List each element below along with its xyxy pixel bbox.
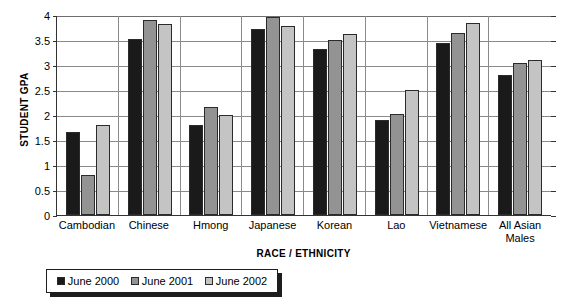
- bar: [143, 20, 157, 215]
- group-separator: [180, 16, 181, 215]
- x-axis-tick-labels: CambodianChineseHmongJapaneseKoreanLaoVi…: [56, 219, 551, 244]
- y-axis-tick-right: [551, 216, 556, 217]
- chart-legend: June 2000June 2001June 2002: [46, 269, 278, 293]
- bar: [313, 49, 327, 216]
- bar-group: [366, 16, 428, 215]
- y-axis-tick-right: [551, 116, 556, 117]
- bar: [204, 107, 218, 216]
- bar-group: [119, 16, 181, 215]
- y-axis-tick-label: 0: [44, 210, 50, 222]
- bar-groups: [57, 16, 551, 215]
- y-axis-tick-right: [551, 141, 556, 142]
- legend-label: June 2001: [142, 275, 193, 287]
- bar: [436, 43, 450, 215]
- bar: [405, 90, 419, 215]
- bar: [466, 23, 480, 216]
- group-separator: [241, 16, 242, 215]
- y-axis-tick-right: [551, 166, 556, 167]
- bar: [328, 40, 342, 215]
- bar-chart: STUDENT GPA 43.532.521.510.50 CambodianC…: [0, 0, 578, 302]
- group-separator: [427, 16, 428, 215]
- legend-label: June 2000: [68, 275, 119, 287]
- y-axis-tick: [53, 216, 57, 217]
- bar-group: [57, 16, 119, 215]
- bar: [513, 63, 527, 216]
- bar: [266, 17, 280, 215]
- x-axis-tick-label: Chinese: [118, 219, 180, 244]
- bar: [158, 24, 172, 215]
- legend-label: June 2002: [216, 275, 267, 287]
- x-axis-tick-label: Lao: [365, 219, 427, 244]
- bar: [251, 29, 265, 215]
- plot-area: 43.532.521.510.50: [56, 16, 551, 216]
- bar: [219, 115, 233, 216]
- bar: [281, 26, 295, 215]
- group-separator: [488, 16, 489, 215]
- bar: [343, 34, 357, 215]
- y-axis-tick-label: 1: [44, 160, 50, 172]
- y-axis-title: STUDENT GPA: [19, 50, 30, 170]
- legend-item: June 2000: [57, 275, 119, 287]
- y-axis-tick-label: 4: [44, 10, 50, 22]
- x-axis-tick-label: Japanese: [242, 219, 304, 244]
- bar: [451, 33, 465, 216]
- legend-swatch: [131, 277, 139, 285]
- bar-group: [428, 16, 490, 215]
- bar: [498, 75, 512, 215]
- y-axis-tick-label: 2: [44, 110, 50, 122]
- bar: [81, 175, 95, 215]
- y-axis-tick-right: [551, 91, 556, 92]
- group-separator: [118, 16, 119, 215]
- legend-swatch: [57, 277, 65, 285]
- legend-item: June 2002: [205, 275, 267, 287]
- bar-group: [181, 16, 243, 215]
- y-axis-tick-right: [551, 191, 556, 192]
- x-axis-tick-label: Vietnamese: [427, 219, 489, 244]
- x-axis-tick-label: Hmong: [180, 219, 242, 244]
- bar: [375, 120, 389, 215]
- bar: [96, 125, 110, 215]
- y-axis-tick-label: 3: [44, 60, 50, 72]
- bar: [528, 60, 542, 215]
- group-separator: [365, 16, 366, 215]
- bar: [66, 132, 80, 216]
- y-axis-tick-label: 3.5: [35, 35, 50, 47]
- bar: [189, 125, 203, 215]
- x-axis-tick-label: Cambodian: [56, 219, 118, 244]
- y-axis-tick-label: 0.5: [35, 185, 50, 197]
- bar: [128, 39, 142, 215]
- bar: [390, 114, 404, 215]
- bar-group: [304, 16, 366, 215]
- x-axis-tick-label: All AsianMales: [489, 219, 551, 244]
- x-axis-tick-label: Korean: [304, 219, 366, 244]
- legend-swatch: [205, 277, 213, 285]
- y-axis-tick-label: 2.5: [35, 85, 50, 97]
- legend-item: June 2001: [131, 275, 193, 287]
- y-axis-tick-right: [551, 16, 556, 17]
- group-separator: [303, 16, 304, 215]
- bar-group: [489, 16, 551, 215]
- bar-group: [242, 16, 304, 215]
- y-axis-tick-label: 1.5: [35, 135, 50, 147]
- y-axis-tick-right: [551, 66, 556, 67]
- x-axis-title: RACE / ETHNICITY: [56, 248, 551, 259]
- y-axis-tick-right: [551, 41, 556, 42]
